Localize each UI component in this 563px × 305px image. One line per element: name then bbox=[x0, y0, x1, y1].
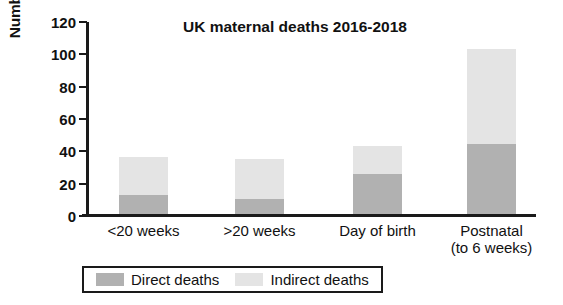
bar-segment-indirect bbox=[235, 159, 284, 199]
legend-item-indirect: Indirect deaths bbox=[235, 271, 368, 288]
bar-segment-direct bbox=[353, 174, 402, 214]
chart-figure: Number of deaths UK maternal deaths 2016… bbox=[0, 0, 563, 305]
bar-stack bbox=[467, 49, 516, 214]
bar-stack bbox=[119, 157, 168, 214]
y-tick-mark bbox=[79, 183, 87, 185]
bar-segment-direct bbox=[467, 144, 516, 214]
y-tick-mark bbox=[79, 215, 87, 217]
y-tick-mark bbox=[79, 21, 87, 23]
bar-stack bbox=[235, 159, 284, 214]
y-tick-mark bbox=[79, 53, 87, 55]
x-axis-label: >20 weeks bbox=[200, 222, 320, 239]
y-tick-label: 80 bbox=[59, 78, 76, 95]
x-axis-line bbox=[82, 214, 536, 217]
x-axis-sublabel: (to 6 weeks) bbox=[432, 239, 552, 256]
legend-label-indirect: Indirect deaths bbox=[270, 271, 368, 288]
bar-segment-indirect bbox=[353, 146, 402, 173]
bar-segment-direct bbox=[235, 199, 284, 214]
y-tick-label: 60 bbox=[59, 111, 76, 128]
y-tick-label: 0 bbox=[68, 208, 76, 225]
y-tick-label: 40 bbox=[59, 143, 76, 160]
x-axis-label: Day of birth bbox=[318, 222, 438, 239]
bar-segment-indirect bbox=[467, 49, 516, 144]
x-axis-label: <20 weeks bbox=[84, 222, 204, 239]
chart-legend: Direct deaths Indirect deaths bbox=[82, 266, 383, 293]
y-tick-mark bbox=[79, 86, 87, 88]
y-tick-label: 100 bbox=[51, 46, 76, 63]
legend-label-direct: Direct deaths bbox=[131, 271, 219, 288]
x-axis-label: Postnatal(to 6 weeks) bbox=[432, 222, 552, 256]
legend-swatch-indirect bbox=[235, 273, 263, 286]
bar-segment-indirect bbox=[119, 157, 168, 194]
plot-area: 020406080100120 bbox=[86, 20, 536, 216]
y-tick-mark bbox=[79, 150, 87, 152]
legend-swatch-direct bbox=[96, 273, 124, 286]
y-tick-label: 20 bbox=[59, 175, 76, 192]
bar-stack bbox=[353, 146, 402, 214]
y-tick-label: 120 bbox=[51, 14, 76, 31]
y-axis-label: Number of deaths bbox=[2, 0, 28, 64]
bar-segment-direct bbox=[119, 195, 168, 214]
legend-item-direct: Direct deaths bbox=[96, 271, 219, 288]
y-tick-mark bbox=[79, 118, 87, 120]
